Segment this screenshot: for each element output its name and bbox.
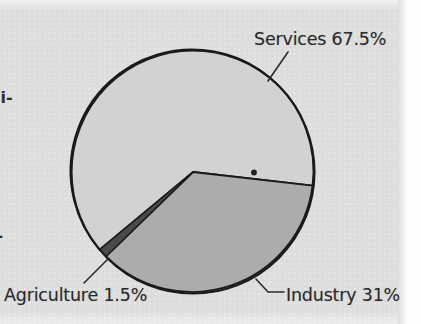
services-leader-line	[268, 52, 288, 81]
agriculture-leader-line	[84, 259, 108, 283]
gutter-text-fragment-3: l	[0, 198, 5, 217]
pie-chart-figure: Services 67.5% Agriculture 1.5% Industry…	[0, 0, 421, 324]
agriculture-label: Agriculture 1.5%	[4, 285, 147, 305]
gutter-text-fragment-2: si-	[0, 88, 13, 107]
industry-leader-line	[256, 279, 284, 292]
services-label: Services 67.5%	[254, 29, 386, 49]
center-dot-marker	[251, 170, 257, 176]
industry-label: Industry 31%	[286, 285, 400, 305]
gutter-text-fragment-1: -	[0, 50, 8, 69]
gutter-text-fragment-4: i-	[0, 226, 11, 245]
